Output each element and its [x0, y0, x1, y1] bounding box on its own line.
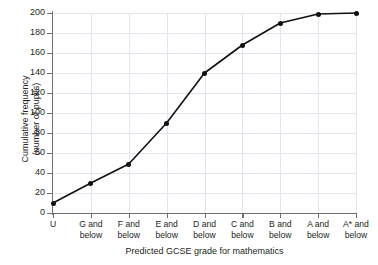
data-point-marker	[51, 201, 56, 206]
data-point-marker	[278, 21, 283, 26]
cumulative-frequency-polyline	[53, 13, 356, 203]
data-point-marker	[202, 71, 207, 76]
data-series-line	[0, 0, 378, 265]
data-point-marker	[240, 43, 245, 48]
data-point-marker	[88, 181, 93, 186]
data-point-marker	[316, 12, 321, 17]
data-point-marker	[354, 11, 359, 16]
x-axis-title: Predicted GCSE grade for mathematics	[53, 246, 356, 256]
chart-figure: Cumulative frequency (number of pupils) …	[0, 0, 378, 265]
data-point-marker	[164, 121, 169, 126]
data-point-marker	[126, 162, 131, 167]
